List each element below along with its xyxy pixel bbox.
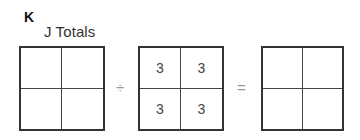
- grid-cell: 3: [181, 48, 222, 89]
- grid-cell[interactable]: [303, 48, 343, 89]
- grid-cell[interactable]: [303, 89, 343, 130]
- grid-cell[interactable]: [263, 48, 303, 89]
- grid-cell: 3: [140, 89, 181, 130]
- grid-title: J Totals: [44, 23, 95, 40]
- grid-cell[interactable]: [21, 89, 62, 130]
- grid-cell[interactable]: [21, 48, 62, 89]
- grid-cell: 3: [140, 48, 181, 89]
- grid-cell: 3: [181, 89, 222, 130]
- j-totals-grid: [19, 46, 105, 131]
- result-grid: [261, 46, 344, 131]
- divide-operator: ÷: [116, 79, 124, 96]
- grid-cell[interactable]: [62, 89, 103, 130]
- grid-cell[interactable]: [263, 89, 303, 130]
- divisor-grid: 3 3 3 3: [138, 46, 224, 131]
- grid-cell[interactable]: [62, 48, 103, 89]
- problem-letter: K: [24, 9, 34, 25]
- equals-operator: =: [237, 79, 246, 96]
